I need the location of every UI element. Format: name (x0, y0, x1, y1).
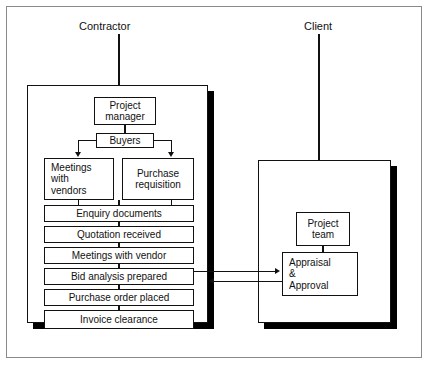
node-process-step-bid-analysis-prepared: Bid analysis prepared (44, 268, 194, 285)
client-stem-line (318, 34, 320, 160)
connector-buyers-right-arm (154, 140, 172, 141)
node-process-step-quotation-received: Quotation received (44, 226, 194, 243)
node-meetings-with-vendors: Meetings with vendors (44, 158, 114, 200)
node-purchase-req-line2: requisition (135, 179, 181, 190)
node-project-manager-line1: Project (109, 100, 140, 111)
node-process-step-invoice-clearance: Invoice clearance (44, 310, 194, 329)
arrowhead-to-meetings-with-vendors (75, 152, 81, 157)
node-project-manager-text: Project manager (105, 100, 144, 123)
process-flow-diagram: Contractor Client Project manager Buyers… (0, 0, 430, 366)
arrowhead-to-appraisal (275, 268, 280, 274)
node-purchase-requisition-text: Purchase requisition (135, 168, 181, 191)
node-process-step-purchase-order-placed: Purchase order placed (44, 289, 194, 306)
node-buyers: Buyers (96, 133, 154, 148)
node-project-team-line2: team (312, 229, 334, 240)
connector-buyers-left-arm (78, 140, 96, 141)
group-label-contractor: Contractor (79, 20, 130, 32)
connector-pm-to-buyers (124, 125, 125, 133)
arrowhead-to-purchase-requisition (168, 152, 174, 157)
arrowhead-to-contractor (209, 278, 214, 284)
node-process-step-meetings-with-vendor: Meetings with vendor (44, 247, 194, 264)
node-project-team: Project team (296, 212, 350, 246)
node-purchase-requisition: Purchase requisition (122, 158, 194, 200)
node-meetings-line3: vendors (51, 185, 87, 196)
node-appraisal-text: Appraisal & Approval (289, 257, 331, 292)
node-meetings-line2: with (51, 173, 69, 184)
node-appraisal-line1: Appraisal (289, 257, 331, 268)
node-project-manager-line2: manager (105, 111, 144, 122)
node-meetings-with-vendors-text: Meetings with vendors (51, 162, 92, 197)
node-process-step-enquiry-documents: Enquiry documents (44, 205, 194, 222)
group-label-client: Client (304, 20, 332, 32)
node-appraisal-line3: Approval (289, 280, 328, 291)
node-meetings-line1: Meetings (51, 162, 92, 173)
node-purchase-req-line1: Purchase (137, 168, 179, 179)
node-appraisal-and-approval: Appraisal & Approval (282, 252, 358, 296)
node-appraisal-line2: & (289, 268, 296, 279)
node-project-team-text: Project team (307, 218, 338, 241)
node-project-team-line1: Project (307, 218, 338, 229)
node-project-manager: Project manager (94, 97, 156, 125)
connector-bid-to-appraisal (194, 271, 276, 272)
connector-appraisal-to-contractor (214, 281, 282, 282)
contractor-stem-line (118, 34, 120, 85)
